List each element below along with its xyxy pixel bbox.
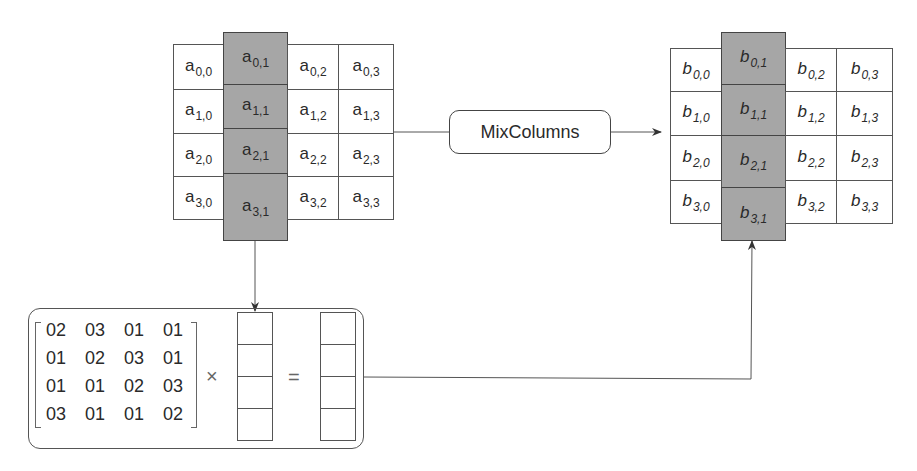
state-cell: a2,3	[338, 133, 394, 177]
matrix-entry: 02	[124, 376, 163, 397]
state-cell: b2,3	[836, 135, 893, 181]
vector-cell	[237, 312, 273, 345]
cell-label: a2,3	[352, 144, 379, 167]
cell-label: b3,3	[851, 191, 878, 214]
state-cell: b0,2	[785, 48, 837, 92]
state-cell: a1,0	[173, 89, 224, 134]
cell-label: a3,0	[185, 187, 212, 210]
cell-label: b0,3	[851, 59, 878, 82]
state-cell: a1,1	[223, 84, 288, 129]
matrix-row: 01020301	[46, 348, 202, 369]
vector-cell	[320, 344, 356, 377]
matrix-row: 03010102	[46, 404, 202, 425]
state-cell: a3,0	[173, 176, 224, 220]
state-cell: a3,3	[338, 176, 394, 220]
state-cell: a2,1	[223, 128, 288, 174]
matrix-entry: 03	[46, 404, 85, 425]
cell-label: a1,0	[185, 100, 212, 123]
state-cell: b1,2	[785, 91, 837, 136]
matrix-entry: 02	[85, 348, 124, 369]
state-cell: b0,0	[670, 48, 722, 92]
state-cell: a1,2	[287, 89, 339, 134]
state-cell: a0,3	[338, 44, 394, 90]
cell-label: a1,3	[352, 100, 379, 123]
cell-label: a2,1	[242, 140, 269, 163]
vector-cell	[237, 344, 273, 377]
cell-label: b1,1	[740, 99, 767, 122]
state-cell: a0,0	[173, 44, 224, 90]
vector-cell	[320, 312, 356, 345]
matrix-entry: 01	[163, 348, 202, 369]
matrix-entry: 01	[85, 376, 124, 397]
mixcolumns-label: MixColumns	[480, 122, 579, 143]
cell-label: a1,1	[242, 95, 269, 118]
vector-cell	[237, 408, 273, 441]
state-cell: b3,3	[836, 180, 893, 224]
state-cell: b0,3	[836, 48, 893, 92]
matrix-entry: 01	[46, 348, 85, 369]
matrix-entry: 03	[124, 348, 163, 369]
state-cell: b3,2	[785, 180, 837, 224]
arrow-result-to-output	[363, 241, 752, 379]
cell-label: a0,1	[242, 47, 269, 70]
state-cell: a3,1	[223, 173, 288, 241]
cell-label: a3,3	[352, 187, 379, 210]
cell-label: b3,1	[740, 203, 767, 226]
state-cell: b2,2	[785, 135, 837, 181]
matrix-entry: 02	[46, 320, 85, 341]
cell-label: a1,2	[299, 100, 326, 123]
cell-label: b1,3	[851, 102, 878, 125]
matrix-entry: 01	[124, 320, 163, 341]
cell-label: a0,2	[299, 56, 326, 79]
state-cell: a3,2	[287, 176, 339, 220]
cell-label: b0,0	[682, 59, 709, 82]
matrix-row: 02030101	[46, 320, 202, 341]
state-cell: a1,3	[338, 89, 394, 134]
state-cell: a0,2	[287, 44, 339, 90]
equals-symbol: =	[288, 366, 300, 389]
matrix-entry: 01	[124, 404, 163, 425]
matrix-entry: 01	[163, 320, 202, 341]
cell-label: b3,0	[682, 191, 709, 214]
cell-label: a0,0	[185, 56, 212, 79]
state-cell: b3,1	[721, 187, 786, 241]
state-cell: b2,1	[721, 135, 786, 188]
state-cell: a2,0	[173, 133, 224, 177]
state-cell: a0,1	[223, 32, 288, 85]
matrix-entry: 03	[163, 376, 202, 397]
cell-label: b3,2	[797, 191, 824, 214]
times-symbol: ×	[206, 365, 218, 388]
state-cell: a2,2	[287, 133, 339, 177]
cell-label: b1,2	[797, 102, 824, 125]
matrix-entry: 01	[46, 376, 85, 397]
state-cell: b1,3	[836, 91, 893, 136]
cell-label: a3,1	[242, 196, 269, 219]
matrix-entry: 03	[85, 320, 124, 341]
state-cell: b1,1	[721, 84, 786, 136]
cell-label: a2,2	[299, 144, 326, 167]
matrix-entry: 01	[85, 404, 124, 425]
vector-cell	[320, 408, 356, 441]
matrix-row: 01010203	[46, 376, 202, 397]
state-cell: b3,0	[670, 180, 722, 224]
vector-cell	[237, 376, 273, 409]
cell-label: a3,2	[299, 187, 326, 210]
cell-label: b0,1	[740, 47, 767, 70]
cell-label: b1,0	[682, 102, 709, 125]
cell-label: b2,1	[740, 150, 767, 173]
vector-cell	[320, 376, 356, 409]
matrix-entry: 02	[163, 404, 202, 425]
cell-label: a0,3	[352, 56, 379, 79]
matrix-left-bracket	[35, 322, 41, 428]
cell-label: b0,2	[797, 59, 824, 82]
cell-label: a2,0	[185, 144, 212, 167]
state-cell: b0,1	[721, 32, 786, 85]
mixcolumns-operation-box: MixColumns	[449, 110, 611, 154]
cell-label: b2,3	[851, 147, 878, 170]
state-cell: b2,0	[670, 135, 722, 181]
cell-label: b2,0	[682, 147, 709, 170]
cell-label: b2,2	[797, 147, 824, 170]
state-cell: b1,0	[670, 91, 722, 136]
